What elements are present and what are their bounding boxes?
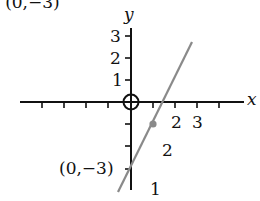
coordinate-plane [0,0,260,201]
header-partial-text: : (0,−3) [0,0,60,11]
point-1-neg1 [149,120,156,127]
y-tick-label-1: 1 [112,72,123,89]
rise-label: 2 [162,142,173,159]
run-label: 1 [150,181,161,198]
origin-marker-icon [123,94,139,110]
x-tick-label-3: 3 [192,114,203,131]
y-tick-label-3: 3 [110,28,121,45]
y-axis-label: y [124,6,134,23]
point-label: (0,−3) [59,160,114,177]
x-tick-label-2: 2 [171,114,182,131]
x-axis-label: x [247,91,257,108]
y-tick-label-2: 2 [110,50,121,67]
